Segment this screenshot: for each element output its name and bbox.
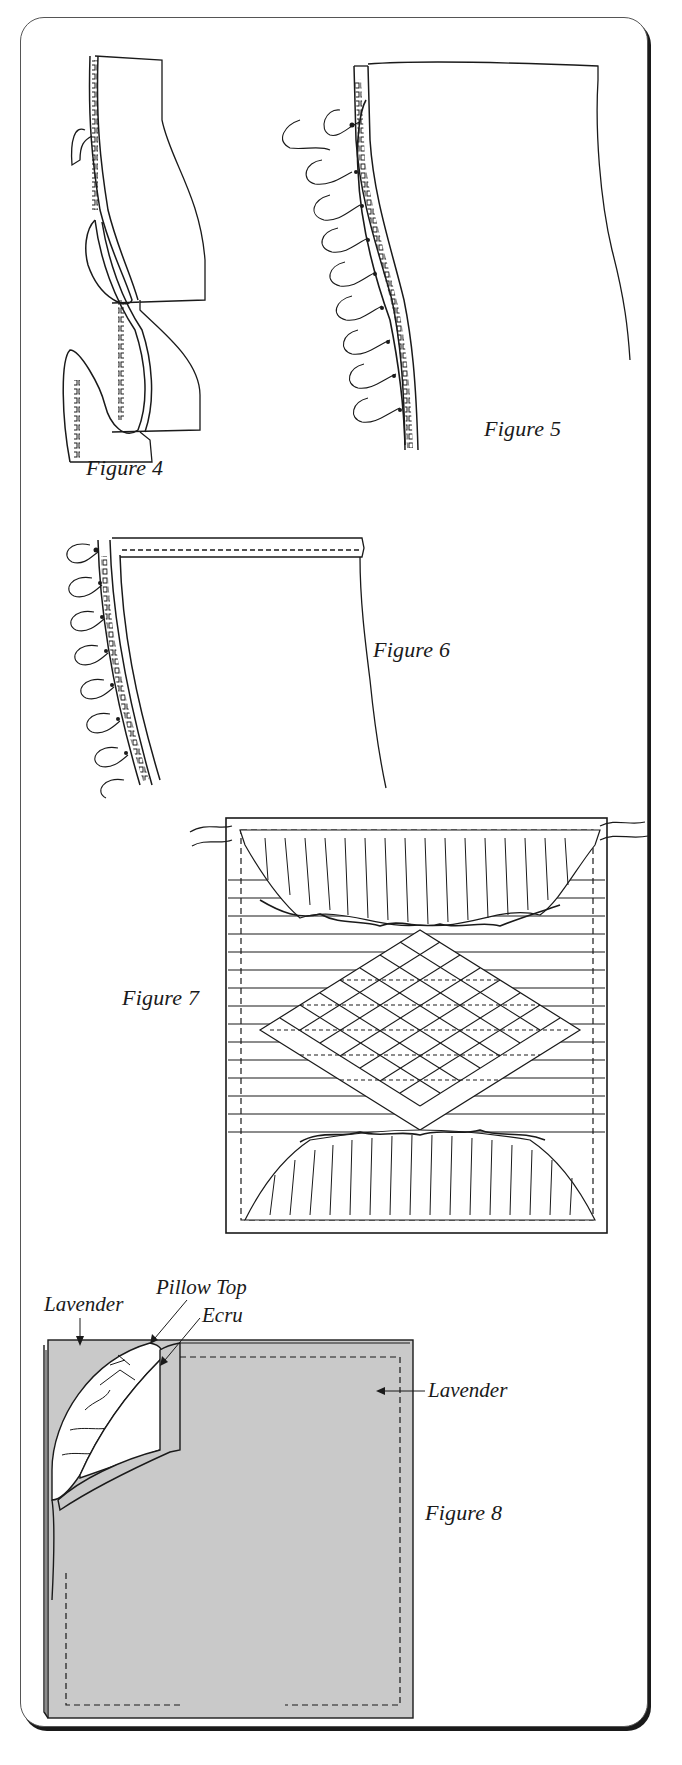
figure-6-drawing bbox=[67, 538, 386, 798]
illustrations-canvas bbox=[0, 0, 682, 1765]
figure-6-caption: Figure 6 bbox=[373, 637, 450, 663]
figure-4-drawing bbox=[63, 56, 205, 462]
figure-5-caption: Figure 5 bbox=[484, 416, 561, 442]
label-ecru: Ecru bbox=[202, 1303, 243, 1328]
figure-8-drawing bbox=[44, 1300, 425, 1718]
label-lavender-top: Lavender bbox=[44, 1292, 123, 1317]
figure-7-caption: Figure 7 bbox=[122, 985, 199, 1011]
label-lavender-right: Lavender bbox=[428, 1378, 507, 1403]
figure-4-caption: Figure 4 bbox=[86, 455, 163, 481]
label-pillow-top: Pillow Top bbox=[156, 1275, 247, 1300]
figure-8-caption: Figure 8 bbox=[425, 1500, 502, 1526]
figure-5-drawing bbox=[283, 62, 630, 450]
figure-7-drawing bbox=[190, 818, 648, 1233]
